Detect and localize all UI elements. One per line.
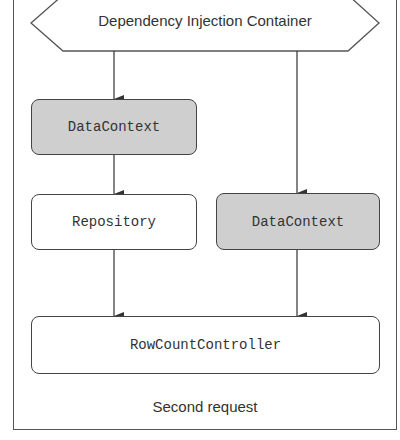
node-datacontext-right: DataContext xyxy=(216,193,380,250)
node-label: DataContext xyxy=(252,214,344,230)
di-diagram: Dependency Injection Container DataConte… xyxy=(0,0,400,440)
node-controller: RowCountController xyxy=(31,316,380,374)
container-label: Dependency Injection Container xyxy=(31,12,379,29)
node-label: RowCountController xyxy=(130,337,281,353)
node-repository: Repository xyxy=(31,194,197,250)
node-label: Repository xyxy=(72,214,156,230)
node-datacontext-top: DataContext xyxy=(31,99,197,155)
node-label: DataContext xyxy=(68,119,160,135)
frame-caption: Second request xyxy=(13,398,397,415)
